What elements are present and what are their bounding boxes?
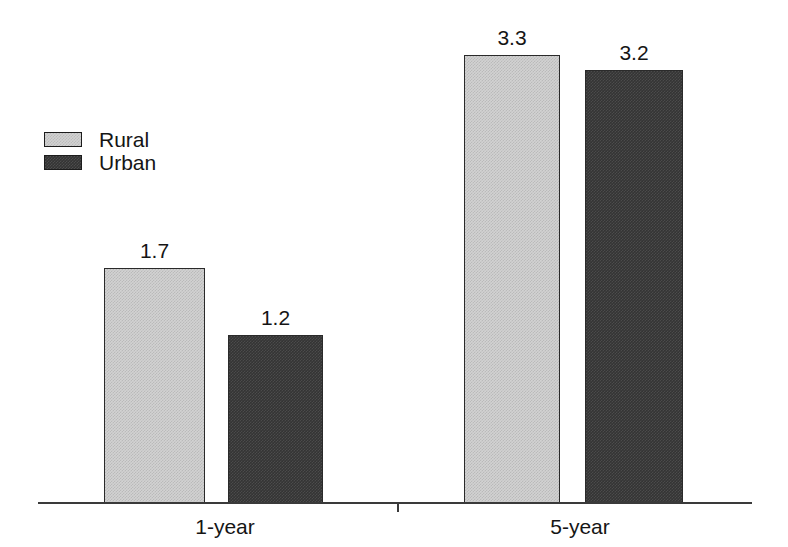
legend-swatch-rural-icon xyxy=(44,132,82,147)
bar-5-year-rural xyxy=(464,55,560,503)
bar-value-1-year-urban: 1.2 xyxy=(228,307,323,328)
bar-5-year-urban xyxy=(585,70,683,503)
chart-legend: Rural Urban xyxy=(44,128,156,174)
bar-value-5-year-rural: 3.3 xyxy=(464,27,560,48)
bar-value-5-year-urban: 3.2 xyxy=(585,42,683,63)
legend-label-urban: Urban xyxy=(99,152,156,173)
bar-value-1-year-rural: 1.7 xyxy=(104,240,205,261)
legend-item-urban: Urban xyxy=(44,151,156,174)
x-axis-label-1-year: 1-year xyxy=(160,516,290,537)
bar-1-year-rural xyxy=(104,268,205,503)
legend-item-rural: Rural xyxy=(44,128,156,151)
bar-chart: Rural Urban 1.7 1.2 3.3 3.2 1-year 5-yea… xyxy=(0,0,788,547)
legend-swatch-urban-icon xyxy=(44,155,82,170)
x-axis-baseline xyxy=(38,502,752,504)
legend-label-rural: Rural xyxy=(99,129,149,150)
bar-1-year-urban xyxy=(228,335,323,503)
x-axis-tick xyxy=(397,504,399,512)
x-axis-label-5-year: 5-year xyxy=(515,516,645,537)
